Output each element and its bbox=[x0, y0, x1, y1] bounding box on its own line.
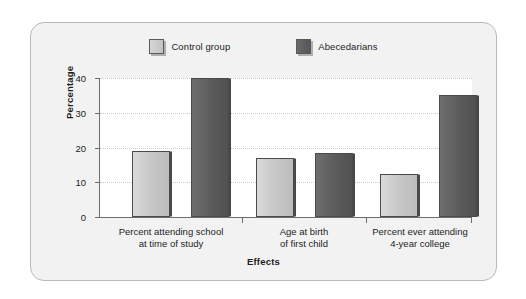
bar-control-group-1 bbox=[132, 151, 170, 217]
x-category-label-1-line-2: at time of study bbox=[95, 238, 247, 250]
chart-legend: Control group Abecedarians bbox=[31, 39, 496, 54]
legend-label-abecedarians: Abecedarians bbox=[318, 41, 377, 52]
x-category-label-1-line-1: Percent attending school bbox=[95, 226, 247, 238]
legend-swatch-control-group-icon bbox=[149, 39, 164, 54]
y-tick-10: 10 bbox=[95, 182, 100, 183]
y-axis-title: Percentage bbox=[64, 66, 75, 119]
y-tick-label-40: 40 bbox=[75, 73, 86, 84]
x-category-label-1: Percent attending school at time of stud… bbox=[95, 226, 247, 249]
plot-area: 40 30 20 10 0 bbox=[99, 78, 472, 217]
bar-control-group-2 bbox=[256, 158, 294, 217]
x-axis-line bbox=[98, 217, 472, 218]
x-category-label-3-line-2: 4-year college bbox=[362, 238, 478, 250]
x-separator-1 bbox=[242, 217, 243, 223]
x-category-label-2-line-2: of first child bbox=[242, 238, 366, 250]
gridline-30 bbox=[100, 113, 472, 114]
x-separator-3 bbox=[471, 217, 472, 223]
legend-item-control-group: Control group bbox=[149, 39, 230, 54]
y-tick-40: 40 bbox=[95, 78, 100, 79]
x-category-label-2: Age at birth of first child bbox=[242, 226, 366, 249]
x-separator-2 bbox=[366, 217, 367, 223]
y-tick-label-0: 0 bbox=[81, 212, 86, 223]
plot-wrapper: 40 30 20 10 0 bbox=[99, 78, 471, 217]
y-tick-label-30: 30 bbox=[75, 108, 86, 119]
bar-control-group-3 bbox=[380, 174, 418, 217]
x-category-label-3-line-1: Percent ever attending bbox=[362, 226, 478, 238]
chart-card: Control group Abecedarians Percentage 40… bbox=[30, 22, 497, 281]
x-category-label-3: Percent ever attending 4-year college bbox=[362, 226, 478, 249]
legend-item-abecedarians: Abecedarians bbox=[296, 39, 377, 54]
gridline-20 bbox=[100, 148, 472, 149]
gridline-40 bbox=[100, 78, 472, 79]
y-tick-30: 30 bbox=[95, 113, 100, 114]
y-tick-label-20: 20 bbox=[75, 143, 86, 154]
legend-swatch-abecedarians-icon bbox=[296, 39, 311, 54]
bar-abecedarians-3 bbox=[439, 95, 477, 217]
x-category-label-2-line-1: Age at birth bbox=[242, 226, 366, 238]
y-tick-label-10: 10 bbox=[75, 177, 86, 188]
bar-abecedarians-2 bbox=[315, 153, 353, 217]
x-axis-title: Effects bbox=[31, 256, 496, 267]
legend-label-control-group: Control group bbox=[171, 41, 230, 52]
bar-abecedarians-1 bbox=[191, 78, 229, 217]
y-tick-20: 20 bbox=[95, 148, 100, 149]
